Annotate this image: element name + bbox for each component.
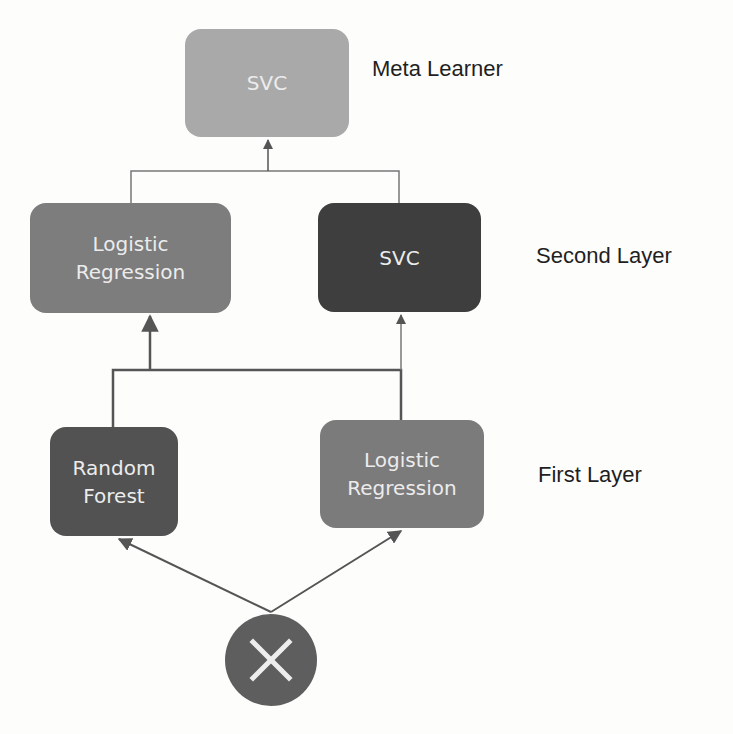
second-layer-svc-label: SVC xyxy=(379,244,419,272)
meta-learner-svc-node: SVC xyxy=(185,29,349,137)
edges-to-second-layer xyxy=(113,315,401,427)
edges-from-input xyxy=(119,531,401,612)
first-layer-logistic-regression-node: Logistic Regression xyxy=(320,420,484,528)
second-layer-svc-node: SVC xyxy=(318,203,481,312)
second-layer-logistic-regression-node: Logistic Regression xyxy=(30,203,231,313)
x-cross-icon xyxy=(249,638,293,682)
connector-lines xyxy=(0,0,733,734)
second-layer-logistic-regression-label: Logistic Regression xyxy=(76,230,185,286)
first-layer-random-forest-node: Random Forest xyxy=(50,427,178,536)
second-layer-label: Second Layer xyxy=(536,243,672,269)
meta-learner-svc-label: SVC xyxy=(247,69,287,97)
edges-to-meta xyxy=(131,140,399,203)
meta-learner-layer-label: Meta Learner xyxy=(372,56,503,82)
diagram-canvas: SVC Meta Learner Logistic Regression SVC… xyxy=(0,0,733,734)
first-layer-logistic-regression-label: Logistic Regression xyxy=(347,446,456,502)
first-layer-label: First Layer xyxy=(538,462,642,488)
input-x-node xyxy=(225,614,317,706)
first-layer-random-forest-label: Random Forest xyxy=(73,454,156,510)
